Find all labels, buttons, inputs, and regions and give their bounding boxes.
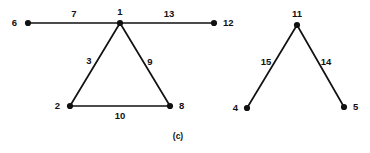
graph-node-6 bbox=[25, 20, 31, 26]
edge-weight-label-1-12: 13 bbox=[164, 8, 175, 19]
graph-node-2 bbox=[67, 103, 73, 109]
graph-node-5 bbox=[341, 104, 347, 110]
edges-group bbox=[28, 23, 344, 108]
nodes-group bbox=[25, 20, 347, 111]
graph-edge-11-4 bbox=[247, 25, 297, 108]
node-label-1: 1 bbox=[117, 6, 123, 17]
graph-canvas: 71339101514 6112281145 (c) bbox=[0, 0, 370, 153]
edge-labels-group: 71339101514 bbox=[71, 8, 332, 121]
graph-node-1 bbox=[117, 20, 123, 26]
node-label-8: 8 bbox=[179, 100, 184, 111]
edge-weight-label-1-2: 3 bbox=[86, 55, 91, 66]
edge-weight-label-1-8: 9 bbox=[147, 56, 152, 67]
graph-node-12 bbox=[211, 20, 217, 26]
edge-weight-label-2-8: 10 bbox=[115, 110, 126, 121]
graph-node-11 bbox=[294, 22, 300, 28]
graph-node-4 bbox=[244, 105, 250, 111]
edge-weight-label-11-5: 14 bbox=[321, 56, 332, 67]
graph-node-8 bbox=[167, 103, 173, 109]
graph-edge-1-8 bbox=[120, 23, 170, 106]
edge-weight-label-6-1: 7 bbox=[71, 8, 76, 19]
node-label-6: 6 bbox=[12, 17, 17, 28]
graph-figure: 71339101514 6112281145 (c) bbox=[0, 0, 370, 153]
node-label-11: 11 bbox=[292, 8, 303, 19]
graph-edge-1-2 bbox=[70, 23, 120, 106]
node-labels-group: 6112281145 bbox=[12, 6, 359, 113]
node-label-2: 2 bbox=[55, 100, 60, 111]
figure-caption: (c) bbox=[173, 131, 184, 141]
node-label-4: 4 bbox=[233, 102, 239, 113]
node-label-12: 12 bbox=[223, 17, 234, 28]
edge-weight-label-11-4: 15 bbox=[261, 56, 272, 67]
node-label-5: 5 bbox=[353, 101, 359, 112]
